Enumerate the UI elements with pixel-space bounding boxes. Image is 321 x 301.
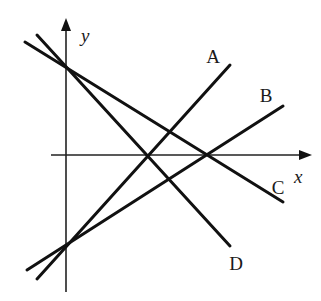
lines-group: ABCD xyxy=(25,35,284,279)
line-label-a: A xyxy=(206,46,220,67)
axes: x y xyxy=(51,18,312,292)
line-label-b: B xyxy=(260,85,273,106)
y-axis-label: y xyxy=(79,25,90,46)
line-label-c: C xyxy=(272,177,285,198)
line-label-d: D xyxy=(229,253,243,274)
coordinate-diagram: x y ABCD xyxy=(0,0,321,301)
x-axis-arrow-icon xyxy=(299,150,312,160)
y-axis-arrow-icon xyxy=(61,18,71,31)
x-axis-label: x xyxy=(293,166,303,187)
